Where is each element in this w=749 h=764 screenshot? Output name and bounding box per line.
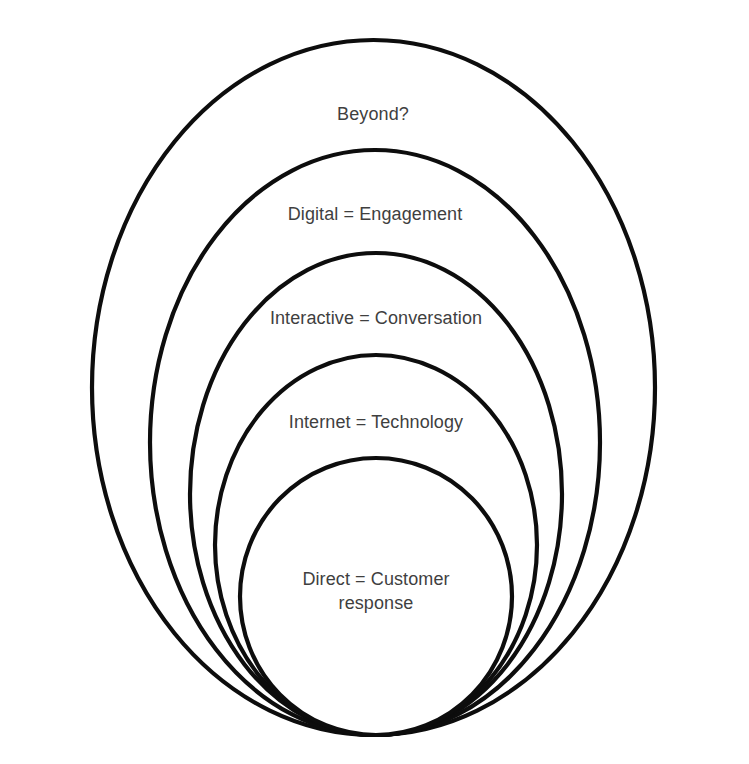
ring-label-digital: Digital = Engagement	[288, 203, 463, 227]
diagram-canvas: Beyond? Digital = Engagement Interactive…	[0, 0, 749, 764]
ring-label-beyond: Beyond?	[337, 103, 409, 127]
ring-label-direct: Direct = Customer response	[302, 568, 449, 616]
ring-label-interactive: Interactive = Conversation	[270, 307, 482, 331]
ring-label-internet: Internet = Technology	[289, 411, 463, 435]
